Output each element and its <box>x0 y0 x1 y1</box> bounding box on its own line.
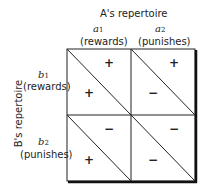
cell-a1b2-upper: − <box>104 122 114 136</box>
cell-a2b1-lower: − <box>148 86 158 100</box>
cell-a1b2-lower: + <box>84 153 94 167</box>
cell-a2b1-upper: + <box>169 56 179 70</box>
payoff-grid <box>0 0 206 188</box>
cell-a1b1-lower: + <box>84 86 94 100</box>
cell-a1b1-upper: + <box>104 56 114 70</box>
cell-a2b2-upper: − <box>169 122 179 136</box>
cell-a2b2-lower: − <box>148 153 158 167</box>
